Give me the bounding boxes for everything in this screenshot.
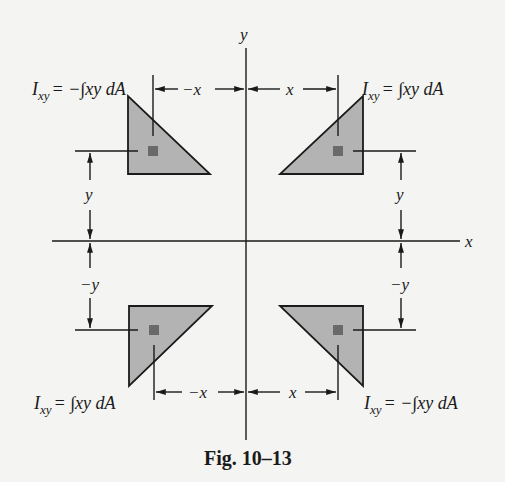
y-dimension-label: −y: [390, 275, 409, 294]
triangle-area: [128, 96, 210, 174]
quadrant-bottom-left: −x −y Ixy= ∫xy dA: [33, 243, 244, 417]
area-element-dA: [148, 146, 158, 156]
y-dimension-label: −y: [80, 275, 99, 294]
product-of-inertia-diagram: y x −x y Ixy= −∫xy dA x y Ix: [0, 0, 505, 482]
formula: Ixy= −∫xy dA: [31, 79, 127, 103]
quadrant-bottom-right: x −y Ixy= −∫xy dA: [248, 243, 459, 417]
formula: Ixy= ∫xy dA: [361, 79, 445, 103]
y-axis-label: y: [238, 25, 248, 44]
x-dimension-label: x: [288, 383, 297, 402]
quadrant-top-left: −x y Ixy= −∫xy dA: [31, 75, 244, 239]
x-axis-label: x: [464, 232, 473, 251]
formula: Ixy= −∫xy dA: [363, 393, 459, 417]
area-element-dA: [149, 325, 159, 335]
x-dimension-label: −x: [188, 383, 207, 402]
triangle-area: [280, 96, 363, 174]
area-element-dA: [333, 325, 343, 335]
x-dimension-label: x: [285, 80, 294, 99]
area-element-dA: [333, 146, 343, 156]
figure-caption: Fig. 10–13: [204, 447, 292, 470]
triangle-area: [280, 306, 363, 386]
triangle-area: [129, 306, 212, 386]
y-dimension-label: y: [394, 185, 404, 204]
y-dimension-label: y: [83, 185, 93, 204]
x-dimension-label: −x: [182, 80, 201, 99]
quadrant-top-right: x y Ixy= ∫xy dA: [248, 75, 445, 239]
formula: Ixy= ∫xy dA: [33, 393, 117, 417]
